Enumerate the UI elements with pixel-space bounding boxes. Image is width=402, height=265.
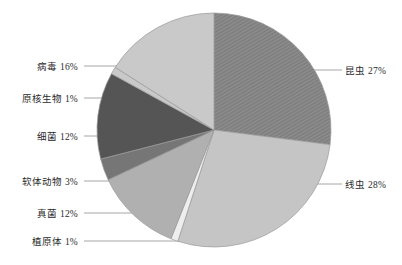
pie-slice-label: 线虫 28% (345, 181, 386, 191)
pie-slice-label: 昆虫 27% (345, 67, 386, 77)
pie-chart-figure: 昆虫 27%线虫 28%植原体 1%真菌 12%软体动物 3%细菌 12%原核生… (0, 0, 402, 265)
pie-slices-group (97, 13, 331, 247)
pie-slice[interactable] (214, 13, 331, 145)
pie-slice-label: 病毒 16% (37, 63, 78, 73)
pie-slice-label: 软体动物 3% (22, 178, 78, 188)
pie-slice-label: 细菌 12% (37, 133, 78, 143)
pie-slice-label: 原核生物 1% (22, 95, 78, 105)
pie-slice-label: 植原体 1% (32, 238, 78, 248)
pie-slice-label: 真菌 12% (37, 210, 78, 220)
